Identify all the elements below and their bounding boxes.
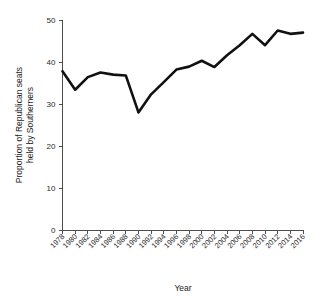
- y-axis-title-line-1: Proportion of Republican seats: [14, 67, 24, 183]
- y-axis: 01020304050: [47, 16, 63, 235]
- y-tick-label: 40: [47, 58, 56, 67]
- y-tick-marks: [59, 20, 63, 230]
- x-axis-title: Year: [174, 283, 191, 293]
- x-tick-labels: 1978198019821984198619881990199219941996…: [48, 232, 307, 250]
- chart-figure: 01020304050 1978198019821984198619881990…: [0, 0, 320, 298]
- y-tick-label: 0: [51, 226, 56, 235]
- y-tick-label: 30: [47, 100, 56, 109]
- y-tick-labels: 01020304050: [47, 16, 56, 235]
- y-axis-title: Proportion of Republican seats held by S…: [14, 67, 35, 183]
- y-axis-title-line-2: held by Southerners: [25, 87, 35, 163]
- y-tick-label: 10: [47, 184, 56, 193]
- y-tick-label: 20: [47, 142, 56, 151]
- x-axis: 1978198019821984198619881990199219941996…: [48, 230, 307, 250]
- x-tick-label: 2016: [289, 232, 307, 250]
- y-tick-label: 50: [47, 16, 56, 25]
- data-series-line: [63, 31, 304, 113]
- line-chart: 01020304050 1978198019821984198619881990…: [0, 0, 320, 298]
